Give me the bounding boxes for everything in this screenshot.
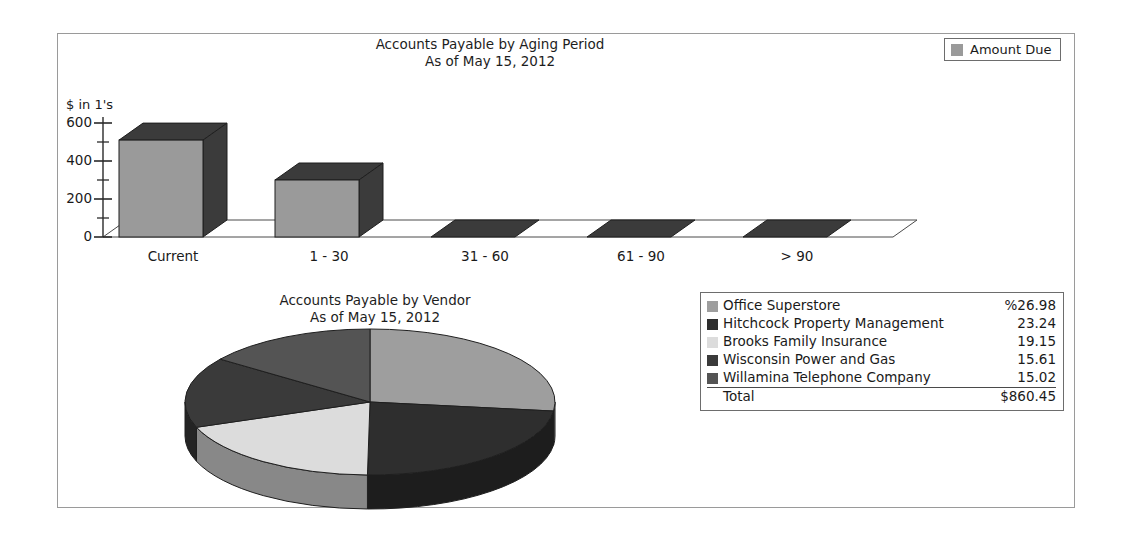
bar-chart-legend[interactable]: Amount Due <box>944 38 1061 61</box>
pie-legend-row[interactable]: Office Superstore%26.98 <box>707 297 1056 315</box>
pie-legend-swatch-cell <box>707 351 723 369</box>
x-tick-label: 1 - 30 <box>249 248 409 264</box>
pie-legend-row[interactable]: Wisconsin Power and Gas15.61 <box>707 351 1056 369</box>
pie-legend-swatch-cell <box>707 315 723 333</box>
pie-legend-label: Hitchcock Property Management <box>723 315 989 333</box>
pie-legend-label: Office Superstore <box>723 297 989 315</box>
pie-legend-swatch <box>707 337 718 348</box>
pie-legend-row[interactable]: Brooks Family Insurance19.15 <box>707 333 1056 351</box>
pie-legend-total-spacer <box>707 388 723 407</box>
bar-chart-title-line1: Accounts Payable by Aging Period <box>260 36 720 53</box>
pie-legend-label: Brooks Family Insurance <box>723 333 989 351</box>
pie-legend-total-row: Total$860.45 <box>707 388 1056 407</box>
pie-legend-row[interactable]: Willamina Telephone Company15.02 <box>707 369 1056 388</box>
bar-chart-title-line2: As of May 15, 2012 <box>260 53 720 70</box>
x-tick-label: 31 - 60 <box>405 248 565 264</box>
x-tick-label: Current <box>93 248 253 264</box>
y-tick-label: 0 <box>50 230 92 243</box>
pie-legend-swatch-cell <box>707 369 723 388</box>
amount-due-swatch <box>951 44 963 56</box>
bar-chart-title: Accounts Payable by Aging Period As of M… <box>260 36 720 70</box>
pie-chart-title-line1: Accounts Payable by Vendor <box>210 292 540 309</box>
pie-legend-table: Office Superstore%26.98Hitchcock Propert… <box>707 297 1056 406</box>
pie-legend-swatch-cell <box>707 297 723 315</box>
pie-legend-total-label: Total <box>723 388 989 407</box>
y-tick-label: 200 <box>50 192 92 205</box>
pie-legend-swatch <box>707 373 718 384</box>
pie-legend-swatch <box>707 319 718 330</box>
pie-slice-top-0 <box>370 329 555 411</box>
pie-legend-value: 19.15 <box>989 333 1056 351</box>
pie-chart-plot <box>150 320 630 510</box>
y-axis-unit-label: $ in 1's <box>66 97 113 112</box>
pie-legend-total-value: $860.45 <box>989 388 1056 407</box>
y-tick-label: 600 <box>50 116 92 129</box>
pie-legend-label: Wisconsin Power and Gas <box>723 351 989 369</box>
x-tick-label: > 90 <box>717 248 877 264</box>
x-tick-label: 61 - 90 <box>561 248 721 264</box>
pie-legend-row[interactable]: Hitchcock Property Management23.24 <box>707 315 1056 333</box>
pie-legend-swatch <box>707 355 718 366</box>
pie-legend-swatch <box>707 301 718 312</box>
pie-legend-value: 15.02 <box>989 369 1056 388</box>
pie-legend-value: 15.61 <box>989 351 1056 369</box>
amount-due-label: Amount Due <box>970 42 1051 57</box>
pie-legend-label: Willamina Telephone Company <box>723 369 989 388</box>
pie-chart-legend[interactable]: Office Superstore%26.98Hitchcock Propert… <box>700 292 1064 411</box>
pie-legend-rows: Office Superstore%26.98Hitchcock Propert… <box>707 297 1056 406</box>
pie-legend-swatch-cell <box>707 333 723 351</box>
y-tick-label: 400 <box>50 154 92 167</box>
pie-legend-value: %26.98 <box>989 297 1056 315</box>
pie-legend-value: 23.24 <box>989 315 1056 333</box>
